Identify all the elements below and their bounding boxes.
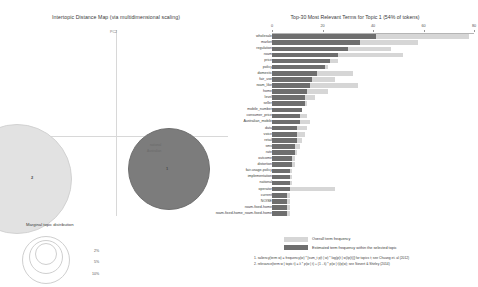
bar-row[interactable]: outcome <box>232 156 478 161</box>
bar-row[interactable]: fair_use <box>232 77 478 82</box>
bar-term-label: seller <box>263 101 272 106</box>
bar-row[interactable]: national <box>232 180 478 185</box>
bar-row[interactable]: roam-fixed-home_roam-fixed-home <box>232 211 478 216</box>
bar-row[interactable]: NOISE <box>232 199 478 204</box>
bar-row[interactable]: voice <box>232 132 478 137</box>
bar-topic-frequency <box>272 181 290 186</box>
vertical-axis-line <box>116 30 117 216</box>
bar-term-label: home <box>263 89 272 94</box>
bar-row[interactable]: policy <box>232 65 478 70</box>
mds-plot-area: PC2 PC1 2 1 national Australian <box>0 26 232 216</box>
bar-topic-frequency <box>272 138 297 143</box>
marginal-ring-label-5: 5% <box>94 260 99 264</box>
bar-rows-container: wholesalemarketregulationroampricepolicy… <box>232 34 478 224</box>
bar-row[interactable]: data <box>232 126 478 131</box>
bar-term-label: market <box>261 40 272 45</box>
topic-bubble-1[interactable] <box>128 128 210 210</box>
x-tick-mark <box>323 30 324 32</box>
bar-row[interactable]: price <box>232 58 478 63</box>
bar-term-label: level <box>265 95 272 100</box>
bar-chart-area: 020406080 wholesalemarketregulationroamp… <box>232 24 478 224</box>
bar-topic-frequency <box>272 169 290 174</box>
bar-term-label: Australian_mobile <box>243 119 272 124</box>
x-tick-mark <box>272 30 273 32</box>
x-tick-label: 40 <box>371 24 375 28</box>
bar-topic-frequency <box>272 95 305 100</box>
bar-term-label: mobile_number <box>247 107 272 112</box>
x-tick-label: 80 <box>472 24 476 28</box>
bar-topic-frequency <box>272 40 360 45</box>
chart-legend: Overall term frequency Estimated term fr… <box>284 236 474 253</box>
bar-term-label: current <box>261 193 272 198</box>
bar-term-label: national <box>259 180 272 185</box>
x-tick-label: 60 <box>421 24 425 28</box>
bar-topic-frequency <box>272 126 297 131</box>
bar-row[interactable]: fair-usage-policy <box>232 168 478 173</box>
bar-topic-frequency <box>272 108 302 113</box>
legend-row-overall: Overall term frequency <box>284 236 474 243</box>
footnotes: 1. saliency(term w) = frequency(w) * [su… <box>254 256 478 267</box>
x-tick-label: 0 <box>271 24 273 28</box>
bar-row[interactable]: consumer_price <box>232 113 478 118</box>
bar-topic-frequency <box>272 199 287 204</box>
bar-topic-frequency <box>272 205 287 210</box>
bar-row[interactable]: level <box>232 95 478 100</box>
bar-row[interactable]: home <box>232 89 478 94</box>
bar-row[interactable]: mobile_number <box>232 107 478 112</box>
bar-term-label: implementation <box>248 174 272 179</box>
bar-topic-frequency <box>272 132 297 137</box>
bar-topic-frequency <box>272 162 292 167</box>
bar-topic-frequency <box>272 101 305 106</box>
pyldavis-visualization: Intertopic Distance Map (via multidimens… <box>0 0 478 287</box>
bar-topic-frequency <box>272 77 312 82</box>
bar-term-label: roam_like <box>256 83 272 88</box>
topic-bubble-2[interactable] <box>0 124 72 234</box>
bar-row[interactable]: roam_like <box>232 83 478 88</box>
bar-topic-frequency <box>272 53 338 58</box>
bar-row[interactable]: current <box>232 193 478 198</box>
bar-term-label: voice <box>264 132 272 137</box>
marginal-topic-distribution-legend: Marginal topic distribution 2% 5% 10% <box>18 222 118 280</box>
bar-term-label: wholesale <box>256 34 272 39</box>
bar-topic-frequency <box>272 71 317 76</box>
bar-topic-frequency <box>272 156 292 161</box>
bar-row[interactable]: market <box>232 40 478 45</box>
bar-topic-frequency <box>272 144 295 149</box>
bar-row[interactable]: roam <box>232 52 478 57</box>
bubble-word-australian: Australian <box>147 149 161 153</box>
axis-label-pc2: PC2 <box>110 30 117 34</box>
bar-row[interactable]: retail <box>232 138 478 143</box>
bar-row[interactable]: distortion <box>232 162 478 167</box>
bar-topic-frequency <box>272 120 300 125</box>
bar-term-label: fair_use <box>259 77 272 82</box>
bar-term-label: retail <box>264 138 272 143</box>
bar-term-label: roam-fixed-home_roam-fixed-home <box>216 211 272 216</box>
bar-row[interactable]: rate <box>232 150 478 155</box>
bar-topic-frequency <box>272 150 295 155</box>
intertopic-map-title: Intertopic Distance Map (via multidimens… <box>0 14 232 20</box>
bar-row[interactable]: wholesale <box>232 34 478 39</box>
marginal-legend-title: Marginal topic distribution <box>26 222 73 227</box>
x-tick-mark <box>424 30 425 32</box>
bar-row[interactable]: domestic <box>232 71 478 76</box>
bar-row[interactable]: seller <box>232 101 478 106</box>
legend-label-topic: Estimated term frequency within the sele… <box>312 245 397 252</box>
bar-term-label: outcome <box>258 156 272 161</box>
bar-term-label: NOISE <box>261 199 272 204</box>
x-tick-mark <box>474 30 475 32</box>
bar-row[interactable]: sms <box>232 144 478 149</box>
bar-topic-frequency <box>272 34 376 39</box>
x-tick-label: 20 <box>320 24 324 28</box>
bar-term-label: price <box>264 58 272 63</box>
bar-row[interactable]: roam-fixed-home <box>232 205 478 210</box>
bar-row[interactable]: implementation <box>232 174 478 179</box>
bar-term-label: roam <box>264 52 272 57</box>
footnote-relevance: 2. relevance(term w | topic t) = λ * p(w… <box>254 262 478 268</box>
bar-row[interactable]: operator <box>232 187 478 192</box>
marginal-ring-label-10: 10% <box>92 272 99 276</box>
legend-swatch-topic <box>284 245 308 250</box>
bar-row[interactable]: Australian_mobile <box>232 119 478 124</box>
bar-topic-frequency <box>272 211 287 216</box>
bar-row[interactable]: regulation <box>232 46 478 51</box>
legend-row-topic: Estimated term frequency within the sele… <box>284 245 474 252</box>
